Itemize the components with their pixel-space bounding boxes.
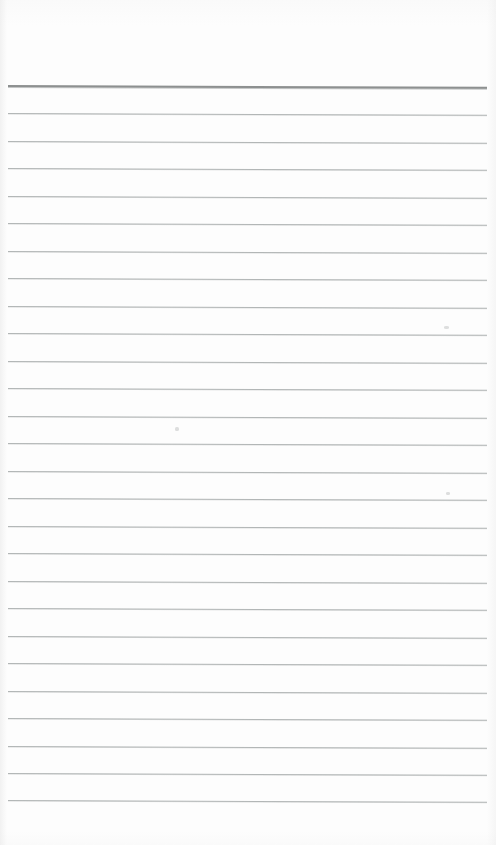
rule-line-stroke <box>8 223 487 226</box>
rule-line-4 <box>8 196 487 198</box>
rule-line-11 <box>8 388 487 390</box>
scan-speck-mid-left <box>175 427 179 431</box>
rule-line-stroke <box>8 333 487 336</box>
rule-line-stroke <box>8 361 487 364</box>
rule-line-9 <box>8 333 487 335</box>
rule-line-stroke <box>8 443 487 446</box>
rule-line-2 <box>8 141 487 143</box>
rule-line-stroke <box>8 471 487 474</box>
rule-line-stroke <box>8 85 487 89</box>
rule-line-23 <box>8 718 487 720</box>
rule-line-22 <box>8 691 487 693</box>
rule-line-stroke <box>8 636 487 639</box>
rule-line-stroke <box>8 746 487 749</box>
rule-line-stroke <box>8 800 487 803</box>
rule-line-1 <box>8 113 487 115</box>
rule-line-stroke <box>8 141 487 144</box>
rule-line-20 <box>8 636 487 638</box>
ruled-lines-area <box>0 0 496 845</box>
rule-line-stroke <box>8 608 487 611</box>
rule-line-stroke <box>8 718 487 721</box>
rule-line-8 <box>8 306 487 308</box>
rule-line-14 <box>8 471 487 473</box>
rule-line-stroke <box>8 581 487 584</box>
rule-line-stroke <box>8 306 487 309</box>
rule-line-3 <box>8 168 487 170</box>
rule-line-24 <box>8 746 487 748</box>
rule-line-stroke <box>8 113 487 116</box>
header-rule-line <box>8 85 487 87</box>
rule-line-stroke <box>8 388 487 391</box>
rule-line-10 <box>8 361 487 363</box>
rule-line-25 <box>8 773 487 775</box>
rule-line-stroke <box>8 773 487 776</box>
rule-line-stroke <box>8 416 487 419</box>
rule-line-7 <box>8 278 487 280</box>
rule-line-stroke <box>8 251 487 254</box>
rule-line-6 <box>8 251 487 253</box>
rule-line-16 <box>8 526 487 528</box>
rule-line-5 <box>8 223 487 225</box>
rule-line-stroke <box>8 278 487 281</box>
rule-line-stroke <box>8 168 487 171</box>
rule-line-19 <box>8 608 487 610</box>
rule-line-18 <box>8 581 487 583</box>
rule-line-stroke <box>8 196 487 199</box>
rule-line-26 <box>8 800 487 802</box>
scan-speck-upper-right <box>444 326 449 329</box>
scanned-page <box>0 0 496 845</box>
rule-line-stroke <box>8 526 487 529</box>
rule-line-stroke <box>8 663 487 666</box>
rule-line-stroke <box>8 498 487 501</box>
rule-line-stroke <box>8 691 487 694</box>
rule-line-13 <box>8 443 487 445</box>
rule-line-stroke <box>8 553 487 556</box>
rule-line-15 <box>8 498 487 500</box>
rule-line-21 <box>8 663 487 665</box>
rule-line-12 <box>8 416 487 418</box>
scan-speck-right-lower <box>446 492 450 495</box>
rule-line-17 <box>8 553 487 555</box>
